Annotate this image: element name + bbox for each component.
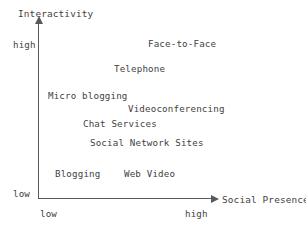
x-axis-tick-high: high xyxy=(185,209,208,218)
y-axis-line xyxy=(38,23,39,199)
data-point-label: Web Video xyxy=(124,169,175,178)
chart-canvas: Interactivity Social Presence high low l… xyxy=(0,0,306,230)
y-axis-tick-low: low xyxy=(13,189,30,198)
data-point-label: Videoconferencing xyxy=(128,104,225,113)
y-axis-title: Interactivity xyxy=(18,9,93,18)
data-point-label: Telephone xyxy=(114,64,165,73)
x-axis-title: Social Presence xyxy=(222,195,306,204)
data-point-label: Face-to-Face xyxy=(148,39,216,48)
data-point-label: Chat Services xyxy=(83,119,157,128)
data-point-label: Blogging xyxy=(55,169,100,178)
data-point-label: Social Network Sites xyxy=(90,138,204,147)
x-axis-arrow-icon xyxy=(211,195,219,203)
y-axis-tick-high: high xyxy=(13,40,36,49)
x-axis-tick-low: low xyxy=(40,209,57,218)
data-point-label: Micro blogging xyxy=(48,91,128,100)
x-axis-line xyxy=(38,198,213,199)
